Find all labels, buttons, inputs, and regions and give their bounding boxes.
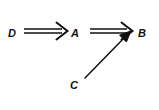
implication-diagram xyxy=(0,0,159,110)
edge-d-to-a xyxy=(24,23,68,40)
node-label-c: C xyxy=(70,80,78,91)
edge-d-to-a-arrowhead-icon xyxy=(57,23,68,40)
edge-c-to-b xyxy=(85,31,131,78)
node-label-a: A xyxy=(71,28,79,39)
diagram-canvas: D A B C xyxy=(0,0,159,110)
edge-c-to-b-line xyxy=(85,37,126,79)
node-label-d: D xyxy=(8,28,16,39)
node-label-b: B xyxy=(138,28,146,39)
